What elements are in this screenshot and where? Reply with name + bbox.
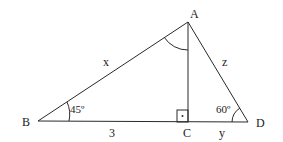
vertex-a-label: A xyxy=(190,7,199,21)
side-bc-label: 3 xyxy=(109,126,115,140)
side-ab-label: x xyxy=(103,55,109,69)
vertex-c-label: C xyxy=(183,126,191,140)
right-angle-dot xyxy=(182,115,184,117)
vertex-d-label: D xyxy=(256,116,265,130)
side-ad-label: z xyxy=(222,55,227,69)
angle-a-arc xyxy=(164,37,188,50)
triangle-diagram: A B C D x z 3 y 45º 60º xyxy=(0,0,283,142)
vertex-b-label: B xyxy=(22,115,30,129)
side-ab xyxy=(38,22,188,121)
side-cd-label: y xyxy=(219,126,225,140)
angle-d-label: 60º xyxy=(216,103,231,115)
side-bd xyxy=(38,121,248,122)
angle-b-label: 45º xyxy=(70,103,85,115)
angle-d-arc xyxy=(232,108,240,122)
